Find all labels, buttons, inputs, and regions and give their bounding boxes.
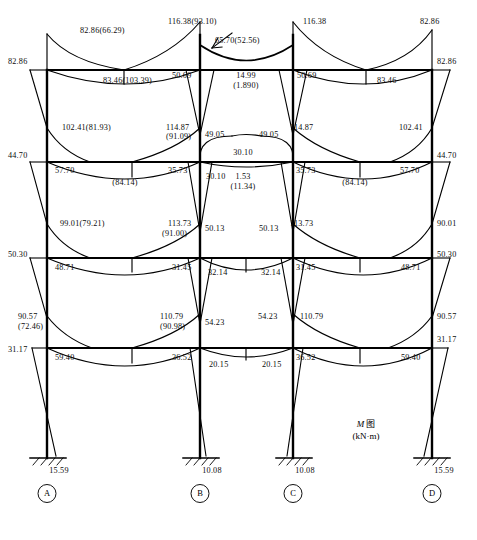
moment-value-f2-d-col: 50.30 [437, 250, 456, 259]
moment-value-f1-bc-l: 20.15 [209, 360, 228, 369]
moment-value-f3-bc-mid: 1.53 [235, 172, 250, 181]
moment-value-f3-cd-span: (84.14) [342, 178, 367, 187]
moment-value-f3-b-right: 49.05 [205, 130, 224, 139]
moment-value-f1-b-right: 54.23 [205, 318, 224, 327]
grid-label-C: C [284, 484, 303, 503]
moment-curve-columns-storey2 [30, 258, 450, 324]
moment-value-f3-c-out: 114.87 [290, 123, 313, 132]
moment-value-f3-d-beam: 57.70 [400, 166, 419, 175]
moment-value-f2-d-beam: 48.71 [401, 263, 420, 272]
moment-value-f1-c-beam: 36.52 [296, 353, 315, 362]
moment-value-f3-bc-mid2: (11.34) [231, 182, 256, 191]
moment-value-f2-b-right: 50.13 [205, 224, 224, 233]
moment-value-r-d-top: 82.86 [420, 17, 439, 26]
moment-value-f1-a-col: 31.17 [8, 345, 27, 354]
moment-value-f3-d-out: 102.41 [399, 123, 423, 132]
moment-value-f1-a-out2: (72.46) [18, 322, 43, 331]
moment-value-r-c-top: 116.38 [303, 17, 326, 26]
moment-value-f1-d-beam: 59.40 [401, 353, 420, 362]
moment-value-f2-a-col: 50.30 [8, 250, 27, 259]
base-reaction-D: 15.59 [434, 466, 453, 475]
moment-value-r-a-col: 82.86 [8, 57, 27, 66]
base-reaction-B: 10.08 [202, 466, 221, 475]
figure-caption: M 图 (kN·m) [326, 418, 406, 442]
moment-value-r-ab-span: 83.46(103.39) [103, 76, 152, 85]
moment-value-f2-a-beam: 48.71 [55, 263, 74, 272]
moment-diagram-figure: 82.86(66.29)82.8683.46(103.39)116.38(93.… [0, 0, 477, 540]
caption-symbol: M [357, 419, 365, 429]
moment-value-f2-c-beam: 31.45 [296, 263, 315, 272]
moment-value-f2-b-out2: (91.00) [162, 229, 187, 238]
moment-value-f3-ab-span: (84.14) [112, 178, 137, 187]
moment-curve-floor2 [47, 224, 432, 275]
moment-value-f1-d-out: 90.57 [437, 312, 456, 321]
moment-value-f2-b-out: 113.73 [168, 219, 191, 228]
moment-value-f2-b-beam: 31.45 [172, 263, 191, 272]
moment-value-r-b-top: 116.38(93.10) [168, 17, 217, 26]
column-lines [47, 35, 432, 458]
moment-value-f1-bc-r: 20.15 [262, 360, 281, 369]
base-reaction-C: 10.08 [295, 466, 314, 475]
caption-suffix: 图 [366, 419, 375, 429]
moment-value-f2-bc-l: 32.14 [208, 268, 227, 277]
caption-units: (kN·m) [326, 430, 406, 442]
moment-value-f1-c-left: 54.23 [258, 312, 277, 321]
moment-value-f3-bc-l: 30.10 [206, 172, 225, 181]
moment-value-f1-b-out: 110.79 [160, 312, 183, 321]
moment-value-r-bc-mid: 14.99 [236, 71, 255, 80]
grid-label-A: A [38, 484, 57, 503]
moment-value-r-a-top-out: 82.86(66.29) [80, 26, 125, 35]
moment-value-r-bc-top: 65.70(52.56) [215, 36, 260, 45]
moment-value-f2-c-out: 113.73 [290, 219, 313, 228]
moment-value-f1-c-out: 110.79 [300, 312, 323, 321]
moment-value-f1-b-out2: (90.98) [160, 322, 185, 331]
moment-value-f1-b-beam: 36.52 [172, 353, 191, 362]
moment-value-f3-c-beam: 35.73 [296, 166, 315, 175]
grid-label-D: D [423, 484, 442, 503]
beam-axis-lines [47, 70, 432, 348]
moment-value-f3-a-beam: 57.70 [55, 166, 74, 175]
moment-value-f3-a-out: 102.41(81.93) [62, 123, 111, 132]
moment-value-f3-a-col: 44.70 [8, 151, 27, 160]
moment-value-f2-c-left: 50.13 [259, 224, 278, 233]
grid-label-B: B [191, 484, 210, 503]
moment-value-f3-b-out: 114.87 [166, 123, 189, 132]
moment-value-f3-b-beam: 35.73 [168, 166, 187, 175]
moment-value-f3-bc-top: 30.10 [233, 148, 252, 157]
moment-value-r-c-right: 50.69 [297, 71, 316, 80]
moment-value-f3-d-col: 44.70 [437, 151, 456, 160]
moment-value-f2-bc-r: 32.14 [261, 268, 280, 277]
moment-value-r-cd-span: 83.46 [377, 76, 396, 85]
moment-value-f3-c-left: 49.05 [259, 130, 278, 139]
moment-value-f3-b-out2: (91.09) [166, 132, 191, 141]
support-hatching [33, 458, 447, 465]
moment-value-f1-a-beam: 59.40 [55, 353, 74, 362]
moment-value-f1-a-out: 90.57 [18, 312, 37, 321]
moment-value-r-bc-mid2: (1.890) [233, 81, 258, 90]
moment-value-f1-d-col: 31.17 [437, 335, 456, 344]
moment-value-r-d-col: 82.86 [437, 57, 456, 66]
moment-value-f2-a-out: 99.01(79.21) [60, 219, 105, 228]
base-reaction-A: 15.59 [49, 466, 68, 475]
moment-value-r-b-left: 50.69 [172, 71, 191, 80]
moment-value-f2-d-out: 90.01 [437, 219, 456, 228]
moment-curve-floor1 [47, 314, 432, 366]
